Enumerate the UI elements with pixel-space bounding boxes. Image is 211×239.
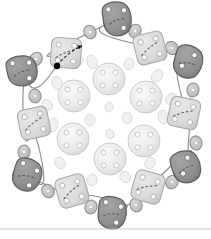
- dark-blob-bottom[interactable]: [97, 195, 128, 230]
- button-hole-2: [101, 163, 106, 168]
- illustration-svg: [0, 0, 211, 239]
- button-hole-3: [78, 100, 83, 105]
- speck-11: [85, 114, 95, 126]
- linker-hole: [134, 203, 137, 206]
- speck-6: [86, 173, 99, 187]
- square-body: [16, 105, 52, 141]
- button-body: [128, 125, 160, 157]
- figure-canvas: [0, 0, 211, 239]
- button-upper-right: [130, 81, 162, 113]
- start-point-dot: [54, 63, 60, 69]
- square-hole-3: [70, 59, 76, 65]
- linker-1: [82, 23, 99, 41]
- button-body: [57, 123, 89, 155]
- blob-hole-2: [113, 220, 119, 226]
- button-hole-1: [78, 87, 83, 92]
- speck-10: [122, 112, 132, 124]
- linker-hole: [34, 57, 37, 60]
- blob-hole-0: [105, 6, 111, 12]
- square-hole-2: [55, 57, 61, 63]
- speck-13: [105, 128, 116, 140]
- button-hole-2: [135, 145, 140, 150]
- button-body: [94, 143, 126, 175]
- linker-hole: [170, 46, 173, 49]
- inner-button-ring: [57, 63, 162, 175]
- blob-body: [9, 155, 46, 194]
- button-hole-1: [77, 130, 82, 135]
- button-lower-left: [57, 123, 89, 155]
- button-hole-0: [135, 132, 140, 137]
- speck-1: [122, 56, 136, 71]
- button-hole-1: [150, 88, 155, 93]
- linker-hole: [191, 88, 194, 91]
- square-hole-1: [72, 43, 78, 49]
- linker-hole: [88, 30, 91, 33]
- button-hole-0: [64, 130, 69, 135]
- speck-4: [143, 155, 158, 170]
- button-hole-0: [65, 87, 70, 92]
- button-hole-1: [114, 150, 119, 155]
- button-hole-3: [148, 145, 153, 150]
- button-hole-2: [64, 143, 69, 148]
- square-hole-0: [56, 42, 62, 48]
- button-hole-3: [114, 163, 119, 168]
- dark-blob-left-lower[interactable]: [9, 155, 46, 194]
- button-hole-3: [150, 101, 155, 106]
- square-body: [132, 30, 168, 66]
- speck-7: [52, 155, 67, 171]
- square-body: [53, 172, 90, 209]
- button-top: [93, 63, 125, 95]
- linker-hole: [22, 150, 25, 153]
- button-hole-3: [77, 143, 82, 148]
- blob-hole-1: [121, 7, 127, 13]
- blob-hole-2: [121, 25, 127, 31]
- light-square-lower-left[interactable]: [53, 172, 90, 209]
- button-hole-0: [137, 88, 142, 93]
- button-body: [58, 80, 90, 112]
- light-square-upper-right[interactable]: [132, 30, 168, 66]
- linker-hole: [170, 180, 173, 183]
- linker-5: [189, 135, 203, 151]
- linker-hole: [46, 189, 49, 192]
- linker-11: [28, 88, 42, 104]
- blob-body: [97, 195, 128, 230]
- button-body: [130, 81, 162, 113]
- speck-3: [157, 109, 169, 125]
- linker-4: [186, 82, 200, 98]
- button-hole-1: [113, 70, 118, 75]
- button-upper-left: [58, 80, 90, 112]
- blob-hole-0: [103, 199, 109, 205]
- button-hole-2: [65, 100, 70, 105]
- light-square-right[interactable]: [166, 95, 202, 131]
- button-hole-0: [100, 70, 105, 75]
- light-square-left[interactable]: [16, 105, 52, 141]
- linker-hole: [89, 205, 92, 208]
- button-hole-2: [137, 101, 142, 106]
- linker-hole: [133, 29, 136, 32]
- button-hole-3: [113, 83, 118, 88]
- speck-12: [104, 101, 115, 113]
- linker-hole: [33, 94, 36, 97]
- button-hole-1: [148, 132, 153, 137]
- blob-hole-1: [118, 204, 124, 210]
- square-body: [166, 95, 202, 131]
- button-hole-0: [101, 150, 106, 155]
- linker-hole: [194, 141, 197, 144]
- button-lower-right: [128, 125, 160, 157]
- button-body: [93, 63, 125, 95]
- button-hole-2: [100, 83, 105, 88]
- button-bottom: [94, 143, 126, 175]
